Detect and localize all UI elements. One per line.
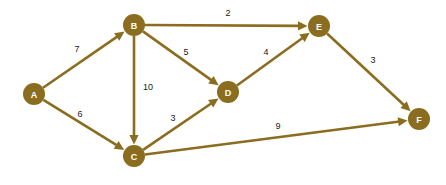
node-label: C <box>131 152 138 162</box>
edge-line <box>145 25 300 26</box>
edge-weight-label: 3 <box>370 55 375 65</box>
edge-line <box>143 103 212 150</box>
edge-line <box>145 122 400 155</box>
node-label: B <box>131 21 138 31</box>
edge-arrowhead-icon <box>129 135 138 145</box>
graph-edge-a-c <box>43 100 124 150</box>
node-label: E <box>316 22 322 32</box>
edge-line <box>43 36 118 88</box>
edge-line <box>43 100 117 146</box>
edge-weight-label: 2 <box>225 8 230 18</box>
edge-line <box>237 37 303 85</box>
graph-node-b[interactable]: B <box>123 14 145 36</box>
graph-diagram-canvas: ABCDEF 7610523943 <box>0 0 446 185</box>
graph-node-d[interactable]: D <box>217 81 239 103</box>
edge-weight-label: 6 <box>77 109 82 119</box>
edge-weight-label: 7 <box>74 44 79 54</box>
graph-node-a[interactable]: A <box>23 83 45 105</box>
graph-node-f[interactable]: F <box>408 108 430 130</box>
node-label: F <box>416 115 422 125</box>
edge-weight-label: 4 <box>263 47 268 57</box>
node-label: A <box>31 90 38 100</box>
edge-weight-label: 5 <box>183 47 188 57</box>
graph-edge-a-b <box>43 32 124 88</box>
graph-edge-c-d <box>143 98 218 149</box>
graph-edge-b-e <box>145 21 308 30</box>
edge-line <box>143 31 212 80</box>
node-label: D <box>225 88 232 98</box>
graph-edge-e-f <box>327 33 411 111</box>
edge-weight-label: 3 <box>170 113 175 123</box>
edge-line <box>327 33 405 105</box>
edge-arrowhead-icon <box>298 21 308 30</box>
graph-edge-d-e <box>237 33 310 86</box>
edge-arrowhead-icon <box>398 117 408 126</box>
edge-weight-label: 9 <box>275 121 280 131</box>
edge-weight-label: 10 <box>143 82 153 92</box>
graph-node-c[interactable]: C <box>123 145 145 167</box>
graph-edge-b-c <box>129 36 138 145</box>
graph-svg: ABCDEF 7610523943 <box>0 0 446 185</box>
graph-node-e[interactable]: E <box>308 15 330 37</box>
graph-edge-b-d <box>143 31 219 85</box>
